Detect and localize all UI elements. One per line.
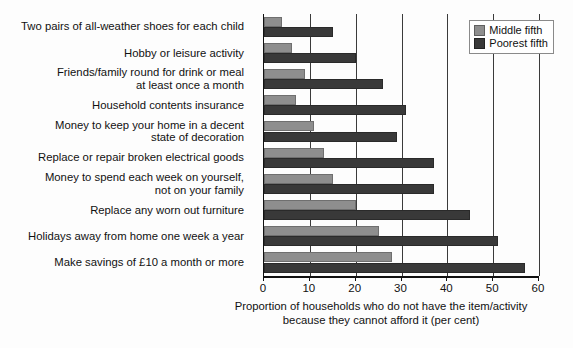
category-label-line: at least once a month: [0, 79, 244, 92]
bar-middle-fifth: [264, 17, 282, 27]
bar-poorest-fifth: [264, 79, 383, 89]
category-label: Household contents insurance: [0, 99, 244, 112]
square-swatch-icon: [474, 25, 485, 36]
category-label-line: not on your family: [0, 184, 244, 197]
bar-poorest-fifth: [264, 27, 333, 37]
x-tick-0: [263, 276, 264, 281]
x-tick-20: [355, 276, 356, 281]
category-label-line: Money to spend each week on yourself,: [0, 171, 244, 184]
legend-label-middle-fifth: Middle fifth: [489, 24, 542, 37]
bar-middle-fifth: [264, 148, 324, 158]
category-label: Holidays away from home one week a year: [0, 230, 244, 243]
category-label-line: Money to keep your home in a decent: [0, 119, 244, 132]
category-label: Hobby or leisure activity: [0, 47, 244, 60]
category-label-line: Replace any worn out furniture: [0, 204, 244, 217]
bar-group: [264, 66, 539, 92]
legend-item-poorest-fifth: Poorest fifth: [474, 37, 548, 50]
bar-middle-fifth: [264, 95, 296, 105]
bar-middle-fifth: [264, 174, 333, 184]
bar-middle-fifth: [264, 252, 392, 262]
category-label: Replace any worn out furniture: [0, 204, 244, 217]
x-tick-40: [446, 276, 447, 281]
bar-group: [264, 224, 539, 250]
bar-middle-fifth: [264, 226, 379, 236]
x-tick-30: [401, 276, 402, 281]
bar-poorest-fifth: [264, 210, 470, 220]
x-tick-50: [492, 276, 493, 281]
bar-poorest-fifth: [264, 105, 406, 115]
bar-group: [264, 171, 539, 197]
category-label: Replace or repair broken electrical good…: [0, 151, 244, 164]
bar-poorest-fifth: [264, 53, 356, 63]
x-tick-label-40: 40: [431, 282, 461, 294]
bar-middle-fifth: [264, 121, 314, 131]
bar-middle-fifth: [264, 69, 305, 79]
category-label-line: Replace or repair broken electrical good…: [0, 151, 244, 164]
bar-poorest-fifth: [264, 263, 525, 273]
category-label-line: Friends/family round for drink or meal: [0, 66, 244, 79]
chart-legend: Middle fifth Poorest fifth: [469, 20, 554, 54]
x-tick-label-10: 10: [294, 282, 324, 294]
category-label-line: Holidays away from home one week a year: [0, 230, 244, 243]
bar-group: [264, 119, 539, 145]
legend-label-poorest-fifth: Poorest fifth: [489, 37, 548, 50]
x-tick-label-50: 50: [477, 282, 507, 294]
x-tick-10: [309, 276, 310, 281]
bar-group: [264, 250, 539, 276]
x-tick-label-0: 0: [248, 282, 278, 294]
bar-group: [264, 93, 539, 119]
category-label-line: Two pairs of all-weather shoes for each …: [0, 20, 244, 33]
x-axis-title-line-1: Proportion of households who do not have…: [196, 300, 566, 314]
category-label: Money to keep your home in a decentstate…: [0, 119, 244, 144]
category-label: Make savings of £10 a month or more: [0, 256, 244, 269]
x-axis-title-line-2: because they cannot afford it (per cent): [196, 314, 566, 328]
category-label-line: Make savings of £10 a month or more: [0, 256, 244, 269]
bar-middle-fifth: [264, 43, 292, 53]
bar-middle-fifth: [264, 200, 356, 210]
x-tick-label-20: 20: [340, 282, 370, 294]
x-axis-title: Proportion of households who do not have…: [196, 300, 566, 327]
bar-group: [264, 197, 539, 223]
legend-item-middle-fifth: Middle fifth: [474, 24, 548, 37]
bar-poorest-fifth: [264, 158, 434, 168]
bar-group: [264, 145, 539, 171]
bar-poorest-fifth: [264, 132, 397, 142]
square-swatch-icon: [474, 38, 485, 49]
bar-poorest-fifth: [264, 236, 498, 246]
category-label-line: Household contents insurance: [0, 99, 244, 112]
horizontal-bar-chart: Two pairs of all-weather shoes for each …: [0, 0, 573, 348]
x-tick-label-30: 30: [386, 282, 416, 294]
category-label: Two pairs of all-weather shoes for each …: [0, 20, 244, 33]
x-tick-60: [538, 276, 539, 281]
category-label-column: Two pairs of all-weather shoes for each …: [0, 14, 252, 276]
category-label-line: Hobby or leisure activity: [0, 47, 244, 60]
bar-poorest-fifth: [264, 184, 434, 194]
category-label: Friends/family round for drink or mealat…: [0, 66, 244, 91]
category-label: Money to spend each week on yourself,not…: [0, 171, 244, 196]
x-tick-label-60: 60: [523, 282, 553, 294]
category-label-line: state of decoration: [0, 131, 244, 144]
